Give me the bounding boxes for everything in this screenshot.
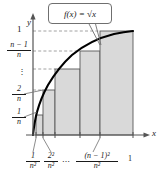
x-leader-2 (43, 138, 51, 152)
y-tick-label-2-over-n: 2 n (12, 85, 26, 104)
y-axis-arrow (30, 13, 35, 20)
rectangle-4 (80, 51, 100, 135)
y-tick-den-n: n (12, 118, 26, 126)
y-tick-num-2: 2 (12, 85, 26, 93)
x-tick-num-n-1-sq: (n − 1)² (76, 152, 118, 160)
x-tick-label-1: 1 (128, 155, 132, 163)
x-tick-label-ellipsis: ⋯ (62, 158, 70, 166)
rectangle-1 (36, 115, 43, 135)
y-tick-label-1: 1 (17, 25, 22, 34)
rectangle-3 (55, 69, 80, 135)
y-tick-label-ellipsis: ⋮ (18, 68, 26, 76)
x-leader-4 (93, 138, 100, 152)
x-leader-1 (33, 138, 36, 152)
x-axis-label: x (152, 129, 156, 138)
x-axis-arrow (144, 132, 151, 137)
x-tick-den-n2: n² (26, 162, 40, 170)
rectangle-5 (100, 31, 133, 135)
x-label-leaders (33, 138, 100, 152)
x-tick-label-n-1-sq-over-n2: (n − 1)² n² (76, 152, 118, 171)
x-tick-den-n2: n² (44, 162, 58, 170)
rectangle-2 (43, 90, 55, 135)
figure-sqrt-riemann-sum: f(x) = √x y x 1 n − 1 n ⋮ 2 n 1 n 1 n² 2… (0, 0, 160, 182)
function-callout-label: f(x) = √x (64, 9, 96, 19)
y-tick-label-n-1-over-n: n − 1 n (7, 41, 31, 60)
x-tick-num-1: 1 (26, 152, 40, 160)
y-tick-num-1: 1 (12, 108, 26, 116)
x-tick-label-2sq-over-n2: 2² n² (44, 152, 58, 171)
x-tick-label-1-over-n2: 1 n² (26, 152, 40, 171)
y-tick-den-n: n (7, 51, 31, 59)
y-axis-label: y (27, 18, 31, 27)
x-tick-den-n2: n² (76, 162, 118, 170)
y-tick-label-1-over-n: 1 n (12, 108, 26, 127)
y-tick-den-n: n (12, 95, 26, 103)
function-callout: f(x) = √x (48, 3, 112, 24)
y-tick-num-n-1: n − 1 (7, 41, 31, 49)
x-tick-num-2sq: 2² (44, 152, 58, 160)
